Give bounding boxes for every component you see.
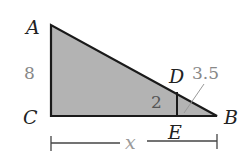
vertex-label-c: C: [23, 106, 38, 128]
length-cb: x: [125, 131, 136, 153]
length-de: 2: [151, 92, 162, 112]
length-eb: 3.5: [192, 63, 219, 83]
vertex-label-b: B: [223, 106, 238, 128]
similar-triangles-diagram: A C B D E 8 2 3.5 x: [0, 0, 247, 153]
length-ac: 8: [24, 63, 35, 83]
vertex-label-a: A: [24, 16, 40, 38]
vertex-label-d: D: [168, 65, 184, 87]
vertex-label-e: E: [167, 121, 182, 143]
